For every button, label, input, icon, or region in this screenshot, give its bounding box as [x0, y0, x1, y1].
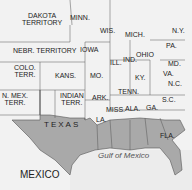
label-ny: N.Y. [172, 27, 185, 34]
label-pa: PA. [166, 42, 177, 49]
label-fla: FLA. [160, 132, 175, 139]
label-mo: MO. [90, 72, 103, 79]
label-ga: GA. [146, 104, 158, 111]
label-mich: MICH. [125, 31, 145, 38]
label-colo-terr: COLO.TERR. [14, 64, 36, 78]
label-nebr-territory: NEBR. TERRITORY [13, 47, 76, 54]
label-n-mex-terr: N. MEX.TERR. [2, 92, 28, 106]
civil-war-map: DAKOTATERRITORY MINN. WIS. MICH. N.Y. NE… [0, 0, 192, 190]
label-ohio: OHIO [136, 51, 154, 58]
label-miss: MISS. [106, 106, 125, 113]
label-ind: IND. [123, 56, 137, 63]
label-va: VA. [163, 70, 174, 77]
label-gulf-of-mexico: Gulf of Mexico [98, 152, 149, 159]
label-tenn: TENN. [118, 88, 139, 95]
label-iowa: IOWA [80, 46, 98, 53]
label-ill: ILL. [110, 59, 122, 66]
label-kans: KANS. [55, 72, 76, 79]
label-ark: ARK. [92, 94, 108, 101]
label-mexico: MEXICO [20, 170, 59, 180]
label-ala: ALA. [125, 105, 140, 112]
label-dakota-territory: DAKOTATERRITORY [22, 12, 62, 26]
label-la: LA. [96, 116, 107, 123]
label-wis: WIS. [100, 27, 115, 34]
label-ky: KY. [135, 74, 145, 81]
label-nc: N.C. [168, 80, 182, 87]
label-sc: S.C. [162, 96, 176, 103]
label-indian-terr: INDIANTERR. [60, 92, 84, 106]
label-minn: MINN. [70, 14, 90, 21]
label-texas: TEXAS [44, 121, 80, 128]
label-md: MD. [168, 60, 181, 67]
